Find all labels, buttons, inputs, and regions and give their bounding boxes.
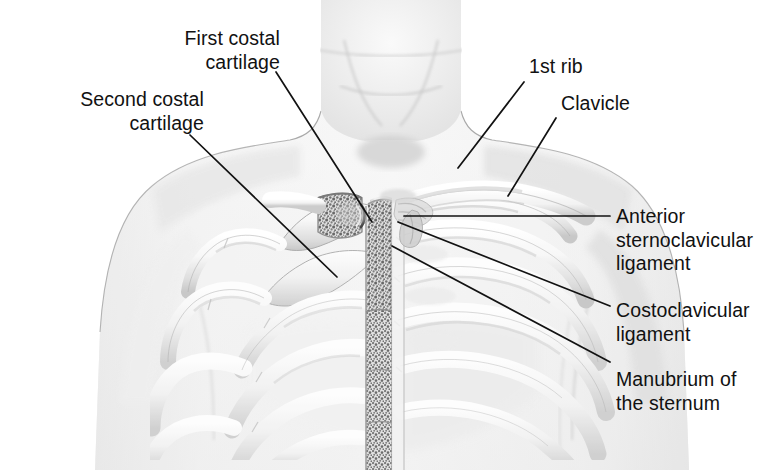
label-first-costal-cartilage: First costal cartilage xyxy=(28,27,280,74)
label-costoclavicular-ligament: Costoclavicular ligament xyxy=(616,299,750,346)
label-clavicle: Clavicle xyxy=(561,92,630,116)
label-anterior-sternoclavicular-ligament: Anterior sternoclavicular ligament xyxy=(616,205,753,276)
label-first-rib: 1st rib xyxy=(529,55,583,79)
label-second-costal-cartilage: Second costal cartilage xyxy=(0,88,204,135)
label-manubrium-of-the-sternum: Manubrium of the sternum xyxy=(616,368,736,415)
